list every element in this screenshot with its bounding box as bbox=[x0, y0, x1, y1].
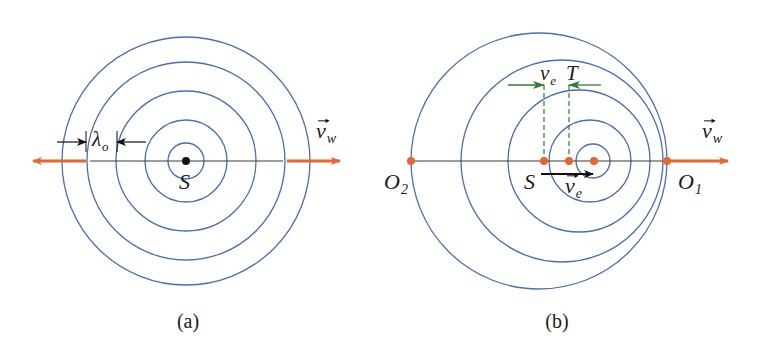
ve-label-text: ve bbox=[540, 61, 556, 88]
source-velocity-arrow: ve bbox=[541, 173, 593, 201]
point-S bbox=[540, 157, 548, 165]
wavelength-marker: λo bbox=[57, 127, 146, 154]
velocity-label-vw-b: vw bbox=[702, 118, 723, 146]
velocity-label-vw-a: vw bbox=[316, 118, 337, 146]
panel-b-moving-source: veT O2SO1 ve vw (b) bbox=[384, 33, 728, 333]
doppler-figure: S vw λo (a) veT O2SO1 ve vw (b) bbox=[0, 0, 758, 355]
T-label-text: T bbox=[566, 61, 579, 85]
vw-label-a: vw bbox=[316, 118, 337, 146]
panel-a-stationary-source: S vw λo (a) bbox=[33, 37, 340, 333]
point-O2 bbox=[407, 157, 415, 165]
caption-b: (b) bbox=[545, 310, 568, 333]
lambda-label-text: λo bbox=[91, 127, 109, 154]
vector-arrowhead-icon bbox=[712, 119, 716, 123]
label-S-text: S bbox=[524, 169, 535, 194]
point-O1 bbox=[663, 157, 671, 165]
T-label: T bbox=[566, 61, 579, 85]
label-O2-text: O2 bbox=[384, 169, 408, 197]
source-dot-a bbox=[182, 157, 190, 165]
lambda-label: λo bbox=[91, 127, 109, 154]
source-label-a: S bbox=[179, 169, 190, 194]
point-source-now bbox=[590, 157, 598, 165]
label-O1-text: O1 bbox=[678, 169, 702, 197]
ve-vector-label-text: ve bbox=[565, 173, 582, 201]
label-O2: O2 bbox=[384, 169, 408, 197]
label-S: S bbox=[524, 169, 535, 194]
point-T-point bbox=[565, 157, 573, 165]
ve-vector-label: ve bbox=[565, 173, 582, 201]
ve-label: ve bbox=[540, 61, 556, 88]
vw-label-b: vw bbox=[702, 118, 723, 146]
source-displacement-marker: veT bbox=[508, 61, 601, 161]
caption-a: (a) bbox=[177, 310, 199, 333]
points-b: O2SO1 bbox=[384, 157, 702, 197]
label-O1: O1 bbox=[678, 169, 702, 197]
vector-arrowhead-icon bbox=[326, 119, 330, 123]
